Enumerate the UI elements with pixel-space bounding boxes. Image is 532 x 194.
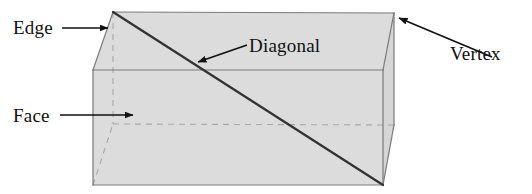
label-edge: Edge bbox=[13, 18, 53, 37]
top-face bbox=[93, 12, 394, 70]
label-face: Face bbox=[13, 106, 50, 125]
label-diagonal: Diagonal bbox=[249, 36, 320, 55]
prism-faces bbox=[93, 12, 394, 185]
geometry-figure: Edge Face Diagonal Vertex bbox=[0, 0, 532, 194]
label-vertex: Vertex bbox=[450, 44, 501, 63]
prism-diagram-svg bbox=[0, 0, 532, 194]
front-face bbox=[93, 70, 383, 185]
